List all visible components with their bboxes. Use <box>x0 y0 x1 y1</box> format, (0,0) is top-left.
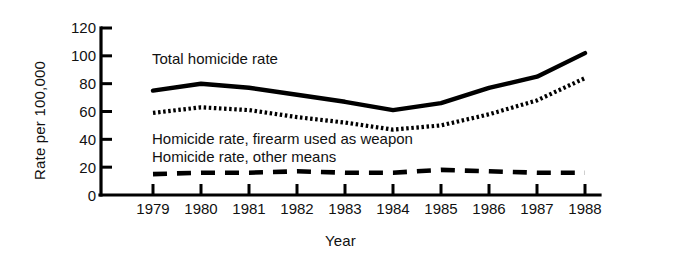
series-line-other-means-homicide-rate <box>153 170 585 174</box>
x-tick-label-1980: 1980 <box>175 200 227 217</box>
x-tick-label-1984: 1984 <box>367 200 419 217</box>
annotation-other-means-homicide-rate: Homicide rate, other means <box>152 148 336 165</box>
x-axis-label: Year <box>0 232 681 249</box>
x-tick-label-1986: 1986 <box>463 200 515 217</box>
x-tick-label-1979: 1979 <box>127 200 179 217</box>
x-tick-label-1981: 1981 <box>223 200 275 217</box>
annotation-total-homicide-rate: Total homicide rate <box>152 50 278 67</box>
x-tick-label-1985: 1985 <box>415 200 467 217</box>
chart-figure: Rate per 100,000 120 100 80 60 40 20 0 1… <box>0 0 681 264</box>
x-tick-label-1988: 1988 <box>559 200 611 217</box>
x-tick-label-1983: 1983 <box>319 200 371 217</box>
y-tick-marks <box>101 28 112 167</box>
x-tick-label-1982: 1982 <box>271 200 323 217</box>
annotation-firearm-homicide-rate: Homicide rate, firearm used as weapon <box>152 130 413 147</box>
x-tick-marks <box>153 184 585 195</box>
x-tick-label-1987: 1987 <box>511 200 563 217</box>
